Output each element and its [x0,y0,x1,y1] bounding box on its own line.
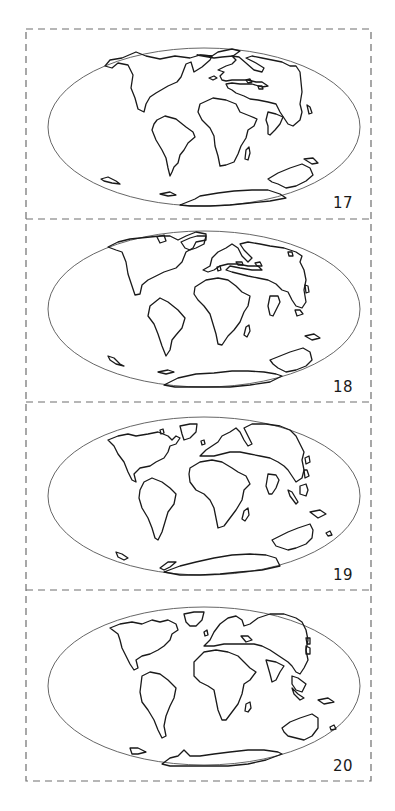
landmass-eurasia [200,424,304,482]
landmass-japan [304,470,309,478]
landmass-australia [268,164,313,188]
landmass-africa [194,650,256,720]
landmass-australia [282,714,318,740]
globe-outline [48,231,360,387]
landmass-arabia [266,660,284,682]
landmass-new-zealand [310,510,326,518]
landmass-antarctic-piece-1 [130,748,146,754]
landmass-sumatra [288,490,298,504]
landmass-se-asia-island [295,310,303,316]
landmass-north-america [110,620,178,670]
landmass-antarctic-piece-1 [101,177,120,184]
map-panel-20 [48,607,360,766]
landmass-new-zealand [304,158,318,164]
landmass-antarctica [162,750,282,766]
landmass-small-island-2 [258,86,263,89]
landmass-north-america [108,432,180,482]
landmass-madagascar [242,508,249,521]
landmass-japan [307,105,312,114]
landmass-africa [198,98,257,166]
landmass-antarctica [164,371,282,387]
landmass-india [266,474,279,494]
map-panel-19 [48,417,360,575]
landmass-south-america [152,116,195,176]
landmass-greenland-ice [157,235,166,243]
landmass-kuril [305,456,310,464]
landmass-small-island-1 [201,440,205,445]
landmass-antarctic-piece-2 [158,370,174,374]
landmass-small-island-2 [160,429,164,434]
globe-outline [48,48,360,206]
landmass-small-island-2 [255,262,262,266]
landmass-new-zealand [318,698,334,704]
landmass-small-island-1 [246,79,252,83]
globe-outline [48,607,360,765]
continental-drift-figure [0,0,395,811]
landmass-australia [272,524,313,550]
landmass-pacific-island [326,531,332,536]
landmass-sumatra [292,688,304,700]
landmass-india [266,112,283,135]
landmass-small-island-3 [236,262,243,265]
panel-number-label: 20 [333,757,353,775]
landmass-india [268,296,280,316]
landmass-kamchatka [288,252,293,256]
landmass-small-island-1 [217,266,221,271]
panel-number-label: 19 [333,566,353,584]
map-panel-17 [48,48,360,206]
landmass-borneo [300,484,308,496]
map-panel-18 [48,231,360,387]
landmass-antarctic-piece-1 [108,356,124,366]
landmass-madagascar [245,147,250,160]
landmass-south-america [148,298,185,356]
landmass-small-island-2 [241,636,252,642]
landmass-greenland [180,424,197,440]
landmass-antarctic-piece-2 [160,192,176,196]
landmass-new-zealand [305,334,320,340]
landmass-japan [306,646,310,654]
landmass-south-america [139,478,176,540]
landmass-antarctica [164,554,280,575]
landmass-pacific-island [330,725,336,730]
landmass-madagascar [245,702,251,712]
landmass-south-america [140,672,176,738]
landmass-antarctic-piece-1 [116,552,128,560]
landmass-japan [305,285,309,293]
landmass-africa [189,460,250,528]
landmass-small-island-3 [209,76,217,80]
panel-number-label: 18 [333,378,353,396]
landmass-north-america [105,52,212,112]
landmass-africa [194,278,250,345]
map-panels [48,48,360,766]
landmass-antarctica [180,190,286,206]
panel-number-label: 17 [333,194,353,212]
landmass-madagascar [244,325,250,337]
landmass-greenland [184,612,204,626]
landmass-eurasia [218,56,302,126]
panel-dividers [26,219,371,590]
landmass-north-america [108,232,206,295]
landmass-eurasia [204,614,308,674]
figure-frame [26,29,371,781]
landmass-small-island-1 [204,630,208,636]
